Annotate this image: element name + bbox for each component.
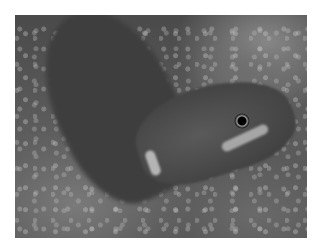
gecko-photo: gecko on rock: [15, 15, 307, 238]
gecko-eye: [234, 113, 250, 129]
